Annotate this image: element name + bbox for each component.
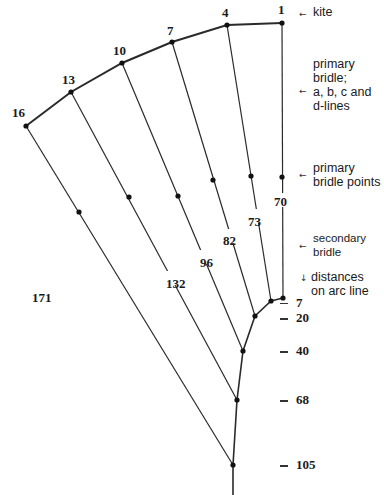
arrow-down-icon: ↓ xyxy=(300,273,308,283)
arrow-left-icon: ← xyxy=(299,170,307,180)
bridle-line-1 xyxy=(282,23,283,298)
primary-bridle-point xyxy=(76,209,81,214)
kite-point-label: 4 xyxy=(222,5,229,20)
kite-point-1 xyxy=(279,20,284,25)
kite-point-label: 16 xyxy=(12,105,26,120)
arc-distance-20: 20 xyxy=(280,310,309,326)
legend-secondary-bridle: secondary bridle xyxy=(313,231,366,259)
secondary-bridle xyxy=(233,298,283,495)
kite-point-13 xyxy=(68,89,73,94)
junction-point xyxy=(252,313,257,318)
legend-kite: kite xyxy=(313,5,332,19)
arrow-left-icon: ← xyxy=(299,241,307,251)
kite-point-10 xyxy=(119,60,124,65)
bridle-line-10 xyxy=(122,63,243,351)
kite-point-16 xyxy=(23,123,28,128)
primary-bridle-point xyxy=(175,193,180,198)
legend-primary-bridle: primary bridle; a, b, c and d-lines xyxy=(313,57,371,113)
arc-distance-7-dash xyxy=(280,303,288,304)
junction-point xyxy=(240,348,245,353)
primary-bridle-point xyxy=(279,174,284,179)
line-length-label: 73 xyxy=(248,214,262,229)
arc-distance-68: 68 xyxy=(280,392,309,408)
arc-distance-105: 105 xyxy=(280,457,316,473)
line-length-label: 132 xyxy=(166,276,186,291)
bridle-line-4 xyxy=(227,25,271,301)
arrow-left-icon: ← xyxy=(299,86,307,96)
kite-point-label: 13 xyxy=(62,72,76,87)
junction-point xyxy=(234,397,239,402)
kite-point-label: 1 xyxy=(278,2,285,17)
kite-point-label: 7 xyxy=(167,23,174,38)
line-length-label: 96 xyxy=(200,255,214,270)
arrow-left-icon: ← xyxy=(299,9,307,19)
legend-distances: distances on arc line xyxy=(311,270,369,298)
arc-distance-40: 40 xyxy=(280,343,309,359)
kite-point-7 xyxy=(169,39,174,44)
kite-point-4 xyxy=(224,22,229,27)
junction-point xyxy=(268,298,273,303)
legend-primary-bridle-points: primary bridle points xyxy=(313,161,380,189)
primary-bridle-point xyxy=(248,173,253,178)
primary-bridle-point xyxy=(126,194,131,199)
kite-point-label: 10 xyxy=(113,43,126,58)
primary-bridle-point xyxy=(210,177,215,182)
junction-point xyxy=(230,462,235,467)
line-length-label: 70 xyxy=(274,194,287,209)
line-length-label: 171 xyxy=(32,290,52,305)
line-length-label: 82 xyxy=(223,233,236,248)
